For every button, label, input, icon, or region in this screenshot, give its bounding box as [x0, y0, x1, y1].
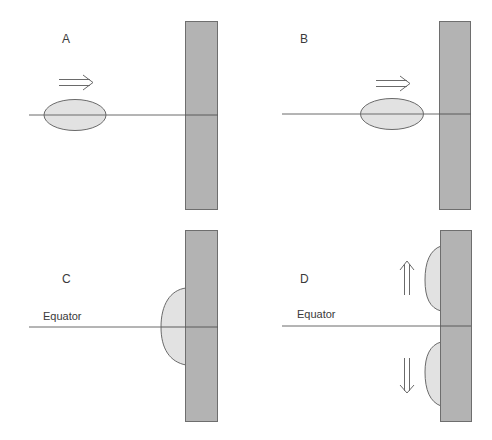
- arrow-right-icon: [59, 75, 93, 90]
- panel-label-c: C: [62, 272, 71, 286]
- arrow-right-icon: [376, 76, 410, 91]
- panel-label-a: A: [62, 32, 70, 46]
- equator-wall-diagram: A B C Equator: [0, 0, 492, 440]
- wall-b: [440, 22, 471, 210]
- panel-label-d: D: [300, 272, 309, 286]
- equator-label-d: Equator: [297, 308, 336, 320]
- panel-label-b: B: [300, 32, 308, 46]
- upper-body-d: [425, 246, 441, 311]
- lower-body-d: [425, 342, 441, 406]
- arrow-down-icon: [400, 358, 414, 393]
- arrow-up-icon: [400, 261, 414, 295]
- panel-d: D Equator: [282, 231, 472, 422]
- wall-c: [186, 231, 218, 422]
- panel-c: C Equator: [29, 231, 218, 422]
- panel-b: B: [282, 22, 471, 210]
- panel-a: A: [29, 22, 218, 210]
- equator-label-c: Equator: [43, 310, 82, 322]
